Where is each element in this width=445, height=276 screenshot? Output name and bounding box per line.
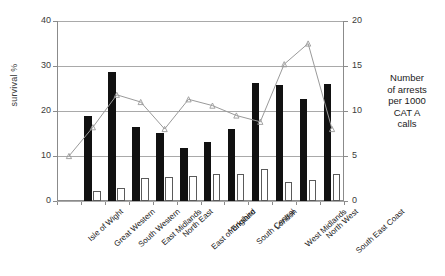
gridline-0: [57, 201, 344, 202]
y-axis-right-title-line-4: CAT A: [372, 107, 442, 119]
y-tick-right-15: 15: [352, 60, 372, 70]
y-tick-left-20: 20: [33, 105, 51, 115]
y-tick-right-5: 5: [352, 150, 372, 160]
y-tick-right-20: 20: [352, 15, 372, 25]
y-tickmark-right-5: [344, 156, 348, 157]
y-tick-right-0: 0: [352, 195, 372, 205]
y-axis-right-title-line-1: Number: [372, 72, 442, 84]
y-axis-right-title-line-5: calls: [372, 118, 442, 130]
line-path: [69, 44, 332, 157]
y-axis-right-title-line-3: per 1000: [372, 95, 442, 107]
y-tick-right-10: 10: [352, 105, 372, 115]
y-tick-left-30: 30: [33, 60, 51, 70]
y-tickmark-right-20: [344, 21, 348, 22]
y-tick-left-10: 10: [33, 150, 51, 160]
chart-figure: survival % Number of arrests per 1000 CA…: [0, 0, 445, 276]
y-axis-right-title: Number of arrests per 1000 CAT A calls: [372, 72, 442, 130]
x-tickmark-12: [344, 201, 345, 205]
line-marker-11: [329, 126, 334, 131]
y-tick-left-40: 40: [33, 15, 51, 25]
x-axis-label-11: South East Coast: [354, 207, 406, 255]
y-axis-left-title: survival %: [9, 77, 19, 93]
y-tick-left-0: 0: [33, 195, 51, 205]
y-tickmark-right-10: [344, 111, 348, 112]
line-series: [57, 21, 344, 201]
y-axis-right-title-line-2: of arrests: [372, 84, 442, 96]
x-axis-label-6: Yorkshire: [227, 207, 258, 236]
plot-area: [57, 21, 344, 201]
y-tickmark-right-15: [344, 66, 348, 67]
